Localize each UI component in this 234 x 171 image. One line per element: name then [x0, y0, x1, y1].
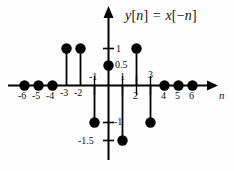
- data-point-neg1: [89, 117, 99, 127]
- data-point-0: [103, 60, 113, 70]
- x-axis-arrowhead: [207, 81, 218, 91]
- data-point-neg3: [61, 43, 71, 53]
- y-tick-label-neg1p5: -1.5: [78, 136, 94, 146]
- data-point-3: [145, 117, 155, 127]
- x-tick-label-1: 1: [120, 72, 125, 82]
- x-tick-label-2: 2: [133, 91, 138, 101]
- data-point-neg2: [75, 43, 85, 53]
- y-tick-label-1: 1: [116, 44, 121, 54]
- x-tick-label-neg2: -2: [74, 88, 82, 98]
- x-tick-label-6: 6: [189, 91, 194, 101]
- x-tick-label-4: 4: [161, 91, 166, 101]
- x-tick-label-neg4: -4: [46, 91, 54, 101]
- x-tick-label-neg1: -1: [89, 72, 97, 82]
- plot-title: y[n] = x[−n]: [125, 8, 197, 24]
- y-tick-label-neg1: -1: [114, 117, 122, 127]
- x-tick-label-neg3: -3: [60, 88, 68, 98]
- plot-canvas: [0, 0, 234, 171]
- data-point-1: [117, 135, 127, 145]
- x-tick-label-neg5: -5: [32, 91, 40, 101]
- y-tick-label-0p5: 0.5: [115, 60, 128, 70]
- y-axis-arrowhead: [104, 6, 114, 18]
- x-tick-label-neg6: -6: [18, 91, 26, 101]
- data-point-2: [131, 43, 141, 53]
- x-axis-label: n: [219, 90, 225, 101]
- stem-plot-figure: y[n] = x[−n] -6 -5 -4 -3 -2 -1 1 2 3 4 5…: [0, 0, 234, 171]
- x-tick-label-3: 3: [148, 70, 153, 80]
- x-tick-label-5: 5: [175, 91, 180, 101]
